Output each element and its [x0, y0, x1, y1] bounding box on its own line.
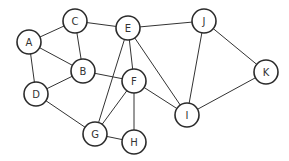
edge-j-i — [187, 21, 204, 115]
nodes-layer: ACEJKBFDIGH — [17, 9, 278, 154]
node-label: F — [131, 76, 137, 87]
node-label: D — [32, 89, 40, 100]
node-c: C — [63, 9, 87, 33]
node-i: I — [175, 103, 199, 127]
node-a: A — [17, 30, 41, 54]
edge-k-i — [187, 72, 266, 115]
node-label: C — [72, 16, 79, 27]
node-f: F — [122, 69, 146, 93]
edges-layer — [29, 21, 266, 142]
node-g: G — [83, 122, 107, 146]
node-label: K — [263, 67, 270, 78]
node-label: I — [186, 110, 189, 121]
node-label: E — [125, 23, 131, 34]
node-h: H — [122, 130, 146, 154]
node-k: K — [254, 60, 278, 84]
graph-diagram: ACEJKBFDIGH — [0, 0, 289, 161]
node-label: B — [80, 66, 87, 77]
node-label: H — [130, 137, 138, 148]
node-j: J — [192, 9, 216, 33]
node-b: B — [71, 59, 95, 83]
node-label: J — [202, 16, 206, 27]
graph-canvas: ACEJKBFDIGH — [0, 0, 289, 161]
node-e: E — [116, 16, 140, 40]
node-label: G — [91, 129, 99, 140]
node-d: D — [24, 82, 48, 106]
node-label: A — [26, 37, 33, 48]
